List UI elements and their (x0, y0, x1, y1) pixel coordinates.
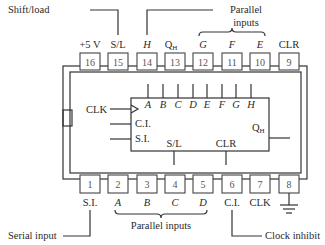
svg-text:14: 14 (142, 57, 152, 68)
label-ci: C.I. (224, 197, 240, 208)
svg-text:F: F (218, 99, 226, 110)
pin-4: 4 (165, 175, 185, 193)
inner-clr-label: CLR (216, 138, 236, 149)
top-pins: 16 15 14 13 12 11 10 9 (80, 53, 299, 70)
pin-1: 1 (80, 175, 100, 193)
svg-text:13: 13 (170, 57, 180, 68)
svg-text:10: 10 (255, 57, 265, 68)
pin-12: 12 (193, 53, 213, 70)
label-a: A (114, 197, 122, 208)
svg-text:2: 2 (116, 179, 121, 190)
svg-text:11: 11 (227, 57, 237, 68)
callout-parallel-bottom: Parallel inputs (131, 220, 191, 231)
label-e: E (256, 39, 264, 50)
pin-5: 5 (193, 175, 213, 193)
svg-text:8: 8 (287, 179, 292, 190)
svg-text:4: 4 (173, 179, 178, 190)
pin-7: 7 (250, 175, 270, 193)
inner-sl-label: S/L (166, 138, 181, 149)
pin-16: 16 (80, 53, 100, 70)
top-pin-labels: +5 V S/L H QH G F E CLR (79, 39, 299, 52)
parallel-top-leader (147, 10, 213, 35)
pin-14: 14 (137, 53, 157, 70)
svg-text:C: C (174, 99, 182, 110)
inner-si-label: S.I. (135, 133, 150, 144)
brace-bottom (115, 210, 207, 218)
svg-text:5: 5 (201, 179, 206, 190)
inner-qh-label: QH (252, 122, 265, 135)
callout-shift-load: Shift/load (8, 4, 50, 15)
top-callouts: Shift/load Parallel inputs (8, 4, 265, 36)
pin-2: 2 (108, 175, 128, 193)
inner-clk-label: CLK (86, 104, 107, 115)
label-sl: S/L (110, 39, 125, 50)
label-clr-top: CLR (279, 39, 299, 50)
pin-10: 10 (250, 53, 270, 70)
brace-top (199, 28, 265, 36)
label-clk-bottom: CLK (250, 197, 271, 208)
callout-parallel-top-2: inputs (233, 17, 259, 28)
bottom-pins: 1 2 3 4 5 6 7 8 (80, 175, 299, 193)
shift-load-leader (90, 10, 118, 35)
inner-ci-label: C.I. (135, 118, 151, 129)
label-g: G (199, 39, 207, 50)
pin-3: 3 (137, 175, 157, 193)
pin-8: 8 (279, 175, 299, 193)
callout-parallel-top-1: Parallel (230, 4, 262, 15)
svg-text:H: H (246, 99, 256, 110)
label-c: C (171, 197, 179, 208)
svg-text:A: A (144, 99, 152, 110)
clock-inhibit-leader (232, 210, 262, 236)
inner-block: A B C D E F G H CLK C.I. S.I. S/L CLR QH (86, 84, 290, 165)
svg-text:16: 16 (85, 57, 95, 68)
label-f: F (228, 39, 236, 50)
ground-icon (280, 193, 298, 213)
pin-13: 13 (165, 53, 185, 70)
svg-text:12: 12 (198, 57, 208, 68)
pin-11: 11 (222, 53, 242, 70)
label-si: S.I. (83, 197, 98, 208)
svg-text:D: D (188, 99, 197, 110)
svg-text:G: G (232, 99, 240, 110)
bottom-callouts: Serial input Parallel inputs Clock inhib… (8, 210, 320, 241)
label-h: H (142, 39, 152, 50)
svg-text:15: 15 (113, 57, 123, 68)
callout-serial-input: Serial input (8, 230, 57, 241)
label-d: D (198, 197, 207, 208)
pin-9: 9 (279, 53, 299, 70)
chip-body (63, 66, 307, 179)
svg-text:7: 7 (258, 179, 263, 190)
bottom-pin-labels: S.I. A B C D C.I. CLK (83, 197, 271, 208)
pin-15: 15 (108, 53, 128, 70)
svg-text:6: 6 (230, 179, 235, 190)
svg-text:B: B (160, 99, 167, 110)
label-5v: +5 V (79, 39, 101, 50)
chip-notch (63, 110, 72, 126)
svg-text:1: 1 (88, 179, 93, 190)
label-b: B (144, 197, 151, 208)
serial-input-leader (63, 210, 90, 236)
svg-text:9: 9 (287, 57, 292, 68)
pin-6: 6 (222, 175, 242, 193)
svg-text:E: E (203, 99, 211, 110)
callout-clock-inhibit: Clock inhibit (265, 230, 320, 241)
clock-triangle-icon (131, 105, 138, 113)
label-qh-top: QH (165, 39, 178, 52)
svg-text:3: 3 (145, 179, 150, 190)
ic-pinout-diagram: 16 15 14 13 12 11 10 9 +5 V S/L H QH G F… (0, 0, 325, 245)
